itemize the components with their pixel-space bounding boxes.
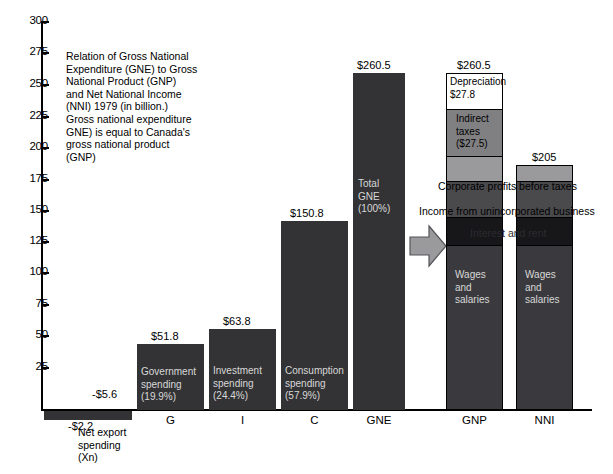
- bar-value-consumption: $150.8: [290, 208, 324, 219]
- bar-label-gne-line1: Total: [358, 178, 379, 191]
- segment-indirect-taxes: Indirect taxes ($27.5): [447, 110, 502, 157]
- segment-corporate-profits-gnp: [447, 157, 502, 182]
- segment-label-depreciation-name: Depreciation: [450, 76, 506, 89]
- x-axis-label-I: I: [209, 414, 276, 426]
- bar-label-gne-line3: (100%): [358, 203, 390, 216]
- y-tick-label-250: 250: [14, 78, 48, 90]
- segment-wages-and-salaries-gnp: Wages and salaries: [447, 246, 502, 409]
- span-label-corporate-profits: Corporate profits before taxes: [438, 181, 577, 192]
- segment-wages-and-salaries-nni: Wages and salaries: [517, 246, 572, 409]
- bar-value-gne: $260.5: [357, 60, 391, 71]
- bar-label-government-line2: spending: [141, 379, 182, 392]
- segment-label-wages-gnp-line2: and: [455, 282, 472, 295]
- chart-canvas: 300 275 250 225 200 175 150 125 100 75 5…: [0, 0, 613, 474]
- bar-consumption-spending: Consumption spending (57.9%): [281, 221, 348, 410]
- x-axis-label-G: G: [137, 414, 204, 426]
- x-axis-label-C: C: [281, 414, 348, 426]
- y-tick-label-200: 200: [14, 141, 48, 153]
- bar-value-government: $51.8: [151, 331, 179, 342]
- x-axis-label-GNE: GNE: [353, 414, 405, 426]
- bar-label-government-line1: Government: [141, 366, 196, 379]
- bar-label-consumption-line2: spending: [285, 378, 326, 391]
- bar-value-net-export-upper: -$5.6: [92, 389, 117, 400]
- y-tick-label-75: 75: [14, 298, 48, 310]
- segment-label-wages-gnp-line1: Wages: [455, 269, 486, 282]
- bar-label-investment-line2: spending: [213, 378, 254, 391]
- y-tick-label-100: 100: [14, 266, 48, 278]
- y-tick-label-150: 150: [14, 204, 48, 216]
- segment-label-indirect-taxes-line1: Indirect: [456, 113, 489, 126]
- y-tick-label-300: 300: [14, 15, 48, 27]
- segment-depreciation: Depreciation $27.8: [447, 74, 502, 110]
- bar-label-gne-line2: GNE: [358, 191, 380, 204]
- bar-label-consumption-line3: (57.9%): [285, 390, 320, 403]
- y-tick-label-225: 225: [14, 110, 48, 122]
- bar-investment-spending: Investment spending (24.4%): [209, 329, 276, 410]
- bar-net-export-spending: [44, 411, 132, 420]
- net-export-annotation: Net export spending (Xn): [78, 426, 188, 464]
- bar-label-investment-line3: (24.4%): [213, 390, 248, 403]
- y-tick-label-275: 275: [14, 46, 48, 58]
- segment-label-indirect-taxes-line2: taxes: [456, 126, 480, 139]
- segment-label-wages-nni-line3: salaries: [525, 294, 559, 307]
- x-axis-label-NNI: NNI: [516, 414, 573, 426]
- bar-gnp-stack: Depreciation $27.8 Indirect taxes ($27.5…: [446, 73, 503, 410]
- segment-label-depreciation-value: $27.8: [450, 89, 475, 102]
- y-tick-label-125: 125: [14, 235, 48, 247]
- y-tick-label-50: 50: [14, 329, 48, 341]
- bar-total-gne: Total GNE (100%): [353, 73, 405, 410]
- bar-label-consumption-line1: Consumption: [285, 365, 344, 378]
- bar-label-government-line3: (19.9%): [141, 391, 176, 404]
- segment-label-wages-nni-line2: and: [525, 282, 542, 295]
- segment-label-wages-nni-line1: Wages: [525, 269, 556, 282]
- bar-value-investment: $63.8: [223, 316, 251, 327]
- bar-value-nni: $205: [532, 152, 556, 163]
- bar-nni-stack: Wages and salaries: [516, 165, 573, 410]
- segment-label-wages-gnp-line3: salaries: [455, 294, 489, 307]
- bar-government-spending: Government spending (19.9%): [137, 344, 204, 410]
- bar-label-investment-line1: Investment: [213, 365, 262, 378]
- span-label-interest-and-rent: Interest and rent: [470, 228, 546, 239]
- bar-value-gnp: $260.5: [457, 60, 491, 71]
- segment-label-indirect-taxes-line3: ($27.5): [456, 138, 488, 151]
- y-tick-label-175: 175: [14, 173, 48, 185]
- x-axis-label-GNP: GNP: [446, 414, 503, 426]
- y-tick-label-25: 25: [14, 361, 48, 373]
- span-label-unincorporated-income: Income from unincorporated business: [419, 206, 595, 217]
- chart-caption: Relation of Gross National Expenditure (…: [66, 50, 242, 163]
- right-arrow-icon: [409, 224, 447, 268]
